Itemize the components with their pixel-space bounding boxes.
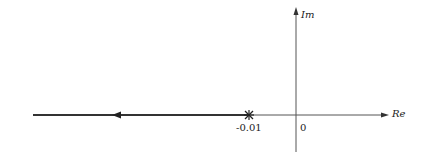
root-locus-diagram: Im Re -0.01 0 [0, 0, 422, 158]
plot-canvas [0, 0, 422, 158]
imag-axis-arrow-icon [294, 7, 299, 15]
real-axis-label: Re [392, 108, 405, 119]
locus-direction-arrow-icon [112, 112, 121, 119]
pole-marker-icon [244, 110, 254, 120]
imag-axis-label: Im [301, 9, 314, 20]
real-axis-arrow-icon [381, 113, 389, 118]
pole-value-label: -0.01 [236, 122, 262, 133]
origin-label: 0 [300, 122, 306, 133]
